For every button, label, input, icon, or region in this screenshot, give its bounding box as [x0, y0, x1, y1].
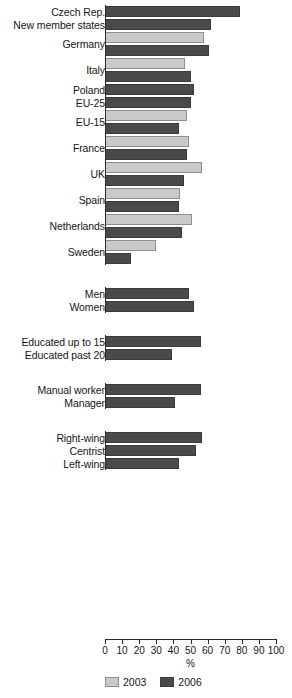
category-label: Right-wing: [56, 432, 105, 443]
category-label-row: Italy: [0, 57, 292, 83]
category-axis-segment: [105, 383, 106, 409]
category-label-row: Educated up to 15: [0, 335, 292, 348]
x-axis-tick: [259, 639, 260, 644]
category-label: Poland: [73, 84, 105, 95]
category-label: Men: [85, 288, 105, 299]
category-label: UK: [91, 169, 105, 180]
legend-swatch-2003: [105, 677, 119, 687]
x-axis-tick: [276, 639, 277, 644]
category-label-row: Spain: [0, 187, 292, 213]
category-label-row: Right-wing: [0, 431, 292, 444]
category-axis-segment: [105, 335, 106, 361]
bar-chart: Czech Rep.New member statesGermanyItalyP…: [0, 0, 292, 698]
legend-swatch-2006: [160, 677, 174, 687]
category-label: Czech Rep.: [51, 6, 105, 17]
category-label-row: Manual worker: [0, 383, 292, 396]
x-axis-tick: [242, 639, 243, 644]
x-axis-tick-label: 100: [264, 645, 288, 657]
x-axis-tick: [139, 639, 140, 644]
category-label: Centrist: [70, 445, 105, 456]
category-label-row: EU-25: [0, 96, 292, 109]
category-label: Manual worker: [37, 384, 105, 395]
category-label: France: [73, 143, 105, 154]
category-axis-segment: [105, 431, 106, 470]
category-label: Women: [70, 301, 106, 312]
x-axis-title: %: [105, 658, 276, 669]
category-label-row: Manager: [0, 396, 292, 409]
legend-label-2003: 2003: [123, 676, 146, 688]
category-label-row: France: [0, 135, 292, 161]
category-label-row: Men: [0, 287, 292, 300]
category-label-row: Left-wing: [0, 457, 292, 470]
x-axis-tick: [225, 639, 226, 644]
category-label-row: Poland: [0, 83, 292, 96]
category-label: EU-25: [76, 97, 105, 108]
x-axis-tick: [191, 639, 192, 644]
category-label: Manager: [64, 397, 105, 408]
x-axis-tick: [208, 639, 209, 644]
category-label-row: Sweden: [0, 239, 292, 265]
category-label: Left-wing: [63, 458, 105, 469]
category-label-row: Educated past 20: [0, 348, 292, 361]
category-label: Italy: [86, 65, 105, 76]
category-label-row: New member states: [0, 18, 292, 31]
legend-item-2003: 2003: [105, 676, 146, 688]
chart-legend: 2003 2006: [105, 676, 285, 688]
category-label: EU-15: [76, 117, 105, 128]
category-axis-segment: [105, 5, 106, 265]
category-label-row: Netherlands: [0, 213, 292, 239]
x-axis-tick: [122, 639, 123, 644]
category-label: Germany: [63, 39, 105, 50]
category-label-row: Women: [0, 300, 292, 313]
category-label: Educated past 20: [25, 349, 105, 360]
legend-item-2006: 2006: [160, 676, 201, 688]
category-label: Netherlands: [49, 221, 105, 232]
category-label-row: Czech Rep.: [0, 5, 292, 18]
legend-label-2006: 2006: [178, 676, 201, 688]
category-label-row: UK: [0, 161, 292, 187]
category-label: Spain: [79, 195, 105, 206]
category-label: New member states: [13, 19, 105, 30]
category-axis-segment: [105, 287, 106, 313]
category-label: Sweden: [68, 247, 105, 258]
category-label-row: Germany: [0, 31, 292, 57]
x-axis-tick: [173, 639, 174, 644]
category-label-row: EU-15: [0, 109, 292, 135]
category-label: Educated up to 15: [21, 336, 105, 347]
category-label-row: Centrist: [0, 444, 292, 457]
x-axis-tick: [156, 639, 157, 644]
plot-area: Czech Rep.New member statesGermanyItalyP…: [0, 0, 292, 640]
x-axis-tick: [105, 639, 106, 644]
